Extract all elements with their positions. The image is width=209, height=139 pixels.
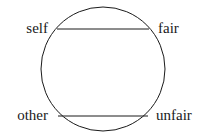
label-fair: fair — [158, 21, 206, 36]
diagram-canvas: self fair other unfair — [0, 0, 209, 139]
label-other: other — [2, 108, 48, 123]
outer-circle — [41, 7, 165, 131]
label-self: self — [6, 21, 48, 36]
label-unfair: unfair — [156, 108, 208, 123]
